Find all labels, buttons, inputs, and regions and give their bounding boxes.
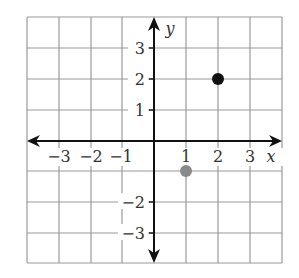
y-tick-label: −2 xyxy=(121,193,145,212)
x-tick-label: 3 xyxy=(245,147,255,166)
label-backgrounds xyxy=(36,20,284,240)
y-tick-label: 2 xyxy=(135,70,145,89)
y-tick-label: 3 xyxy=(135,39,145,58)
x-tick-label: −3 xyxy=(47,147,71,166)
x-tick-label: −2 xyxy=(79,147,103,166)
y-tick-label: 1 xyxy=(135,101,145,120)
point-2-2 xyxy=(212,73,224,85)
x-axis-label: x xyxy=(266,147,275,166)
x-tick-label: 2 xyxy=(213,147,223,166)
coordinate-plane: −3 −2 −1 1 2 3 x 3 2 1 −2 −3 y xyxy=(0,0,299,278)
x-tick-label: −1 xyxy=(109,147,133,166)
y-axis-label: y xyxy=(164,19,175,38)
x-tick-label: 1 xyxy=(181,147,191,166)
y-tick-label: −3 xyxy=(121,224,145,243)
point-1-neg1 xyxy=(180,165,192,177)
